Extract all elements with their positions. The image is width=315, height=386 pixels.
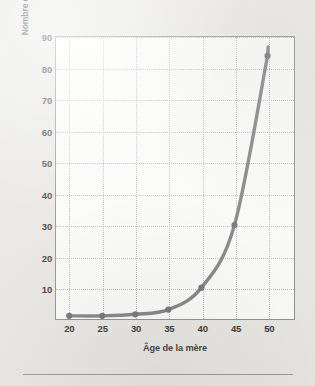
y-axis-title: Nombre d'enfants trisomiques par 1000 na… bbox=[18, 0, 32, 70]
data-point-40 bbox=[198, 285, 204, 291]
curve-line bbox=[69, 47, 268, 316]
y-tick-label: 70 bbox=[42, 95, 52, 106]
y-tick-label: 40 bbox=[42, 189, 52, 200]
data-point-25 bbox=[99, 313, 105, 319]
x-tick-label: 30 bbox=[131, 323, 141, 334]
data-point-45 bbox=[231, 222, 237, 228]
data-point-35 bbox=[165, 307, 171, 313]
y-tick-label: 20 bbox=[42, 252, 52, 263]
x-tick-label: 45 bbox=[231, 323, 241, 334]
data-point-20 bbox=[66, 313, 72, 319]
x-tick-label: 25 bbox=[98, 323, 108, 334]
y-tick-label: 50 bbox=[42, 158, 52, 169]
data-curve bbox=[56, 37, 294, 319]
data-point-30 bbox=[132, 311, 138, 317]
x-tick-label: 20 bbox=[64, 323, 74, 334]
y-tick-label: 80 bbox=[42, 63, 52, 74]
x-axis-title: Âge de la mère bbox=[55, 343, 295, 353]
y-tick-label: 90 bbox=[42, 32, 52, 43]
y-tick-label: 10 bbox=[42, 284, 52, 295]
x-tick-label: 35 bbox=[164, 323, 174, 334]
figure-chart-trisomie: Nombre d'enfants trisomiques par 1000 na… bbox=[0, 0, 315, 386]
y-tick-label: 60 bbox=[42, 126, 52, 137]
curve-markers bbox=[66, 53, 270, 319]
bottom-rule bbox=[23, 374, 293, 375]
plot-area: 102030405060708090 20253035404550 bbox=[55, 36, 295, 320]
y-tick-label: 30 bbox=[42, 221, 52, 232]
plot-inner: 102030405060708090 20253035404550 bbox=[56, 37, 294, 319]
data-point-50 bbox=[264, 53, 270, 59]
x-tick-label: 50 bbox=[264, 323, 274, 334]
x-tick-label: 40 bbox=[198, 323, 208, 334]
